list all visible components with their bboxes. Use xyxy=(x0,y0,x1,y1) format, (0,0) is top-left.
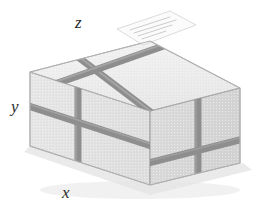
shipping-label xyxy=(117,11,196,45)
axis-label-x: x xyxy=(62,184,70,201)
axis-label-z: z xyxy=(75,14,82,31)
box-diagram xyxy=(0,0,258,219)
axis-label-y: y xyxy=(11,98,19,115)
figure-container: z y x xyxy=(0,0,258,219)
